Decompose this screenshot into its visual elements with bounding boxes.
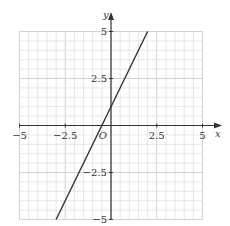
- y-tick-label: 2.5: [91, 73, 107, 84]
- y-axis-arrow-icon: [108, 12, 114, 20]
- x-tick-label: 2.5: [149, 130, 165, 141]
- x-tick-label: −5: [12, 130, 27, 141]
- graph-svg: −5−2.52.5552.5−2.5−5Oxy: [0, 0, 230, 226]
- y-axis-label: y: [102, 9, 109, 20]
- x-axis-label: x: [215, 128, 221, 139]
- origin-label: O: [99, 130, 107, 141]
- y-tick-label: −2.5: [83, 167, 107, 178]
- x-tick-label: 5: [199, 130, 205, 141]
- coordinate-plane: −5−2.52.5552.5−2.5−5Oxy x y: [0, 0, 230, 226]
- x-tick-label: −2.5: [53, 130, 77, 141]
- y-tick-label: 5: [101, 26, 107, 37]
- y-tick-label: −5: [92, 214, 107, 225]
